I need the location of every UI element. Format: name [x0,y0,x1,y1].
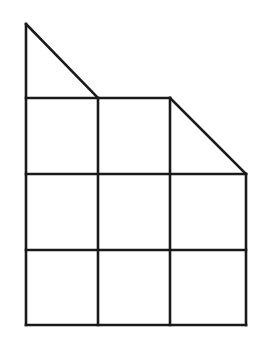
top-left-triangle-hypotenuse [26,24,98,98]
grid-polygon-diagram [0,0,261,344]
top-right-triangle-hypotenuse [170,98,246,174]
